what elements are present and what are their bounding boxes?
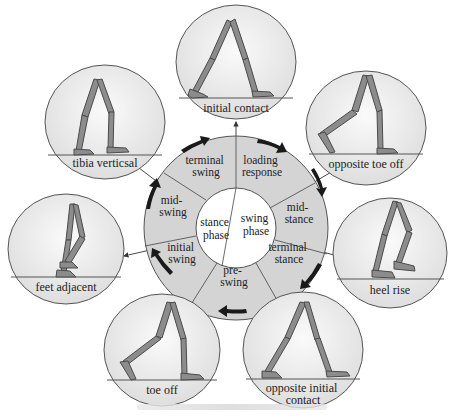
segment-mid-swing: mid- swing [159,194,187,219]
swing-phase-label: swing phase [241,212,271,238]
event-opposite-initial-contact: opposite initial contact [243,292,363,408]
event-initial-contact: initial contact [176,5,296,119]
segment-mid-stance: mid- stance [285,201,314,225]
event-heel-rise: heel rise [333,198,447,308]
svg-text:heel rise: heel rise [370,283,410,297]
gait-cycle-diagram: stance phase swing phase loading respons… [0,0,464,419]
svg-text:feet adjacent: feet adjacent [36,280,98,294]
segment-loading-response: loading response [242,154,282,179]
event-opposite-toe-off: opposite toe off [306,71,426,185]
svg-text:tibia verticsal: tibia verticsal [73,156,139,170]
event-toe-off: toe off [104,294,220,406]
event-feet-adjacent: feet adjacent [8,194,124,304]
svg-text:toe off: toe off [146,383,177,397]
stance-phase-label: stance phase [200,216,232,242]
svg-text:opposite toe off: opposite toe off [328,157,403,171]
event-tibia-vertical: tibia verticsal [45,65,165,179]
segment-pre-swing: pre- swing [220,264,248,289]
figure-caption [0,400,464,414]
caption-illegible [137,404,327,410]
svg-text:initial contact: initial contact [203,101,269,115]
segment-initial-swing: initial swing [167,241,197,266]
